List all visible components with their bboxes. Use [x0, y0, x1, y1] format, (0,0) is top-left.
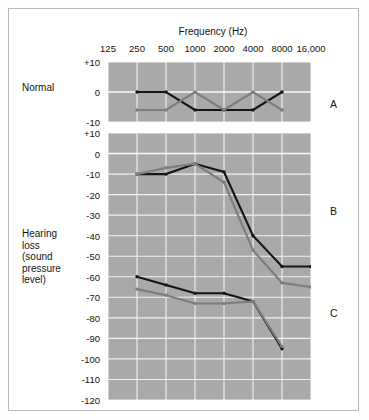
x-tick-label: 250 — [129, 43, 145, 54]
y-tick-label: -80 — [56, 312, 100, 323]
x-tick-label: 1000 — [184, 43, 205, 54]
data-point-marker — [222, 108, 225, 111]
data-point-marker — [251, 234, 254, 237]
audiogram-figure: Frequency (Hz) 1252505001000200040008000… — [0, 0, 369, 420]
x-tick-label: 16,000 — [296, 43, 325, 54]
plot-panel-a — [108, 62, 311, 122]
x-tick-label: 2000 — [213, 43, 234, 54]
data-point-marker — [280, 265, 283, 268]
panel-letter-c: C — [330, 307, 338, 319]
x-tick-label: 500 — [158, 43, 174, 54]
y-tick-label: +10 — [56, 128, 100, 139]
y-tick-label: -10 — [56, 169, 100, 180]
data-point-marker — [251, 90, 254, 93]
panel-bc-plot-area — [108, 133, 311, 400]
data-point-marker — [164, 166, 167, 169]
y-tick-label: 0 — [56, 148, 100, 159]
data-point-marker — [222, 292, 225, 295]
data-point-marker — [164, 283, 167, 286]
row-label-normal: Normal — [22, 82, 54, 94]
y-tick-label: -30 — [56, 210, 100, 221]
data-point-marker — [280, 108, 283, 111]
data-point-marker — [135, 108, 138, 111]
y-tick-label: -110 — [56, 374, 100, 385]
y-tick-label: -120 — [56, 395, 100, 406]
data-point-marker — [164, 172, 167, 175]
y-tick-label: -50 — [56, 251, 100, 262]
y-tick-label: -70 — [56, 292, 100, 303]
data-point-marker — [222, 302, 225, 305]
y-tick-label: 0 — [56, 87, 100, 98]
data-point-marker — [135, 275, 138, 278]
data-point-marker — [222, 170, 225, 173]
y-tick-label: -20 — [56, 189, 100, 200]
x-tick-label: 125 — [100, 43, 116, 54]
data-point-marker — [164, 108, 167, 111]
data-point-marker — [280, 281, 283, 284]
data-point-marker — [251, 300, 254, 303]
data-point-marker — [135, 172, 138, 175]
y-tick-label: -60 — [56, 271, 100, 282]
data-point-marker — [164, 90, 167, 93]
data-point-marker — [222, 181, 225, 184]
x-tick-label: 8000 — [271, 43, 292, 54]
data-point-marker — [193, 162, 196, 165]
y-tick-label: +10 — [56, 57, 100, 68]
y-tick-label: -40 — [56, 230, 100, 241]
data-point-marker — [193, 108, 196, 111]
data-point-marker — [135, 287, 138, 290]
data-series-line — [137, 92, 282, 110]
data-point-marker — [280, 90, 283, 93]
data-point-marker — [135, 90, 138, 93]
x-axis-title: Frequency (Hz) — [108, 26, 318, 37]
x-tick-label: 4000 — [242, 43, 263, 54]
data-point-marker — [193, 292, 196, 295]
data-point-marker — [251, 108, 254, 111]
panel-letter-b: B — [330, 205, 337, 217]
row-label-hearing-loss-line: loss — [22, 240, 84, 252]
y-tick-label: -90 — [56, 333, 100, 344]
x-axis-tick-labels: 125250500100020004000800016,000 — [0, 43, 369, 57]
y-tick-label: -100 — [56, 353, 100, 364]
panel-letter-a: A — [330, 98, 337, 110]
data-point-marker — [280, 345, 283, 348]
data-point-marker — [193, 90, 196, 93]
plot-panel-bc — [108, 133, 311, 400]
y-tick-label: -10 — [56, 117, 100, 128]
data-point-marker — [193, 302, 196, 305]
panel-a-plot-area — [108, 62, 311, 122]
data-point-marker — [251, 248, 254, 251]
data-point-marker — [309, 265, 311, 268]
data-point-marker — [164, 294, 167, 297]
